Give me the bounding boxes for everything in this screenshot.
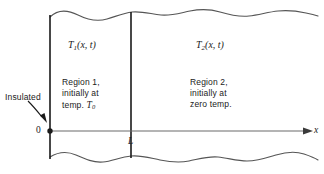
bottom-wavy-edge bbox=[50, 152, 318, 162]
top-wavy-edge bbox=[50, 10, 318, 21]
region2-line1: Region 2, bbox=[190, 77, 232, 88]
temperature-label-region1: T1(x, t) bbox=[68, 39, 96, 52]
region2-description: Region 2, initially at zero temp. bbox=[190, 77, 232, 110]
interface-position-label: L bbox=[128, 135, 133, 147]
region1-temp-subscript: 0 bbox=[92, 103, 95, 110]
t1-arguments: (x, t) bbox=[77, 39, 96, 50]
heat-conduction-diagram: T1(x, t) T2(x, t) Region 1, initially at… bbox=[0, 0, 324, 174]
region1-line3: temp. T0 bbox=[62, 99, 100, 112]
temperature-label-region2: T2(x, t) bbox=[196, 39, 224, 52]
insulated-leader-arrow bbox=[28, 101, 42, 117]
x-axis-label: x bbox=[314, 124, 318, 136]
region1-line2: initially at bbox=[62, 88, 100, 99]
insulated-boundary-label: Insulated bbox=[5, 92, 41, 103]
origin-dot bbox=[47, 128, 52, 133]
insulated-arrowhead bbox=[40, 113, 47, 123]
region2-line2: initially at bbox=[190, 88, 232, 99]
region1-temp-prefix: temp. bbox=[62, 100, 87, 110]
t2-arguments: (x, t) bbox=[205, 39, 224, 50]
region1-line1: Region 1, bbox=[62, 77, 100, 88]
origin-label: 0 bbox=[36, 124, 41, 136]
region2-line3: zero temp. bbox=[190, 99, 232, 110]
diagram-canvas bbox=[0, 0, 324, 174]
region1-description: Region 1, initially at temp. T0 bbox=[62, 77, 100, 111]
region1-temp-var: T0 bbox=[87, 100, 96, 110]
x-axis-arrowhead bbox=[303, 128, 313, 135]
